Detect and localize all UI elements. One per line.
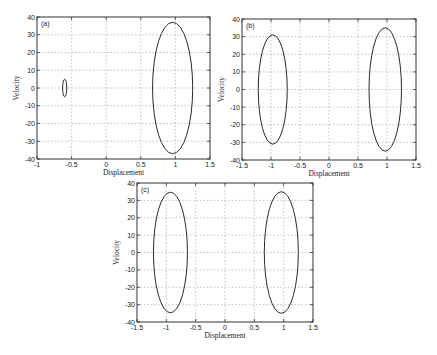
y-tick-label: 0 (31, 85, 35, 92)
y-tick-label: -10 (125, 266, 135, 273)
panel-label: (b) (246, 22, 255, 30)
y-axis-label: Velocity (112, 240, 121, 265)
x-tick-label: 0.5 (249, 324, 259, 331)
y-tick-label: 40 (127, 180, 135, 187)
x-tick-label: -0.5 (294, 162, 306, 169)
y-axis-label: Velocity (217, 77, 226, 102)
y-tick-label: 0 (131, 249, 135, 256)
series-orbit-large (153, 22, 193, 153)
panel-label: (c) (141, 186, 149, 194)
x-tick-label: 0.5 (353, 162, 363, 169)
y-tick-label: 30 (127, 197, 135, 204)
x-tick-label: -0.5 (190, 324, 202, 331)
chart-panel-1: -1.5-1-0.500.511.5-40-30-20-10010203040D… (217, 16, 421, 179)
x-tick-label: 1.5 (411, 162, 421, 169)
y-tick-label: 30 (27, 31, 35, 38)
chart-panel-0: -1-0.500.511.5-40-30-20-10010203040Displ… (12, 14, 215, 178)
x-tick-label: 0 (223, 324, 227, 331)
figure-canvas: -1-0.500.511.5-40-30-20-10010203040Displ… (0, 0, 437, 355)
chart-panel-2: -1.5-1-0.500.511.5-40-30-20-10010203040D… (112, 180, 318, 341)
panel-label: (a) (41, 20, 50, 28)
x-tick-label: 0 (327, 162, 331, 169)
x-tick-label: 1.5 (308, 324, 318, 331)
series-orbit-left (258, 35, 287, 144)
y-tick-label: 20 (232, 51, 240, 58)
y-tick-label: -10 (230, 104, 240, 111)
x-tick-label: 1 (282, 324, 286, 331)
x-tick-label: 1 (173, 161, 177, 168)
y-tick-label: -40 (230, 157, 240, 164)
y-tick-label: 10 (127, 232, 135, 239)
y-tick-label: 10 (27, 67, 35, 74)
y-tick-label: 20 (127, 214, 135, 221)
y-tick-label: -10 (25, 102, 35, 109)
x-tick-label: -0.5 (66, 161, 78, 168)
x-axis-label: Displacement (308, 169, 350, 178)
y-tick-label: -40 (125, 319, 135, 326)
x-axis-label: Displacement (204, 331, 246, 340)
y-tick-label: 40 (232, 16, 240, 23)
y-tick-label: -40 (25, 156, 35, 163)
y-tick-label: 0 (236, 86, 240, 93)
y-tick-label: -30 (125, 301, 135, 308)
x-tick-label: 1.5 (205, 161, 215, 168)
x-tick-label: -1 (268, 162, 274, 169)
y-tick-label: -30 (230, 139, 240, 146)
y-tick-label: 40 (27, 14, 35, 21)
x-tick-label: -1 (163, 324, 169, 331)
y-tick-label: 10 (232, 68, 240, 75)
y-axis-label: Velocity (12, 75, 21, 100)
y-tick-label: -30 (25, 138, 35, 145)
x-tick-label: 0 (104, 161, 108, 168)
y-tick-label: 30 (232, 33, 240, 40)
x-tick-label: 1 (385, 162, 389, 169)
x-tick-label: 0.5 (136, 161, 146, 168)
y-tick-label: -20 (25, 120, 35, 127)
y-tick-label: 20 (27, 49, 35, 56)
y-tick-label: -20 (125, 284, 135, 291)
y-tick-label: -20 (230, 121, 240, 128)
x-axis-label: Displacement (103, 168, 145, 177)
